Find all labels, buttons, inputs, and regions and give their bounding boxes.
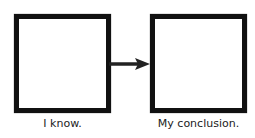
my-conclusion-label: My conclusion. (145, 117, 252, 130)
i-know-box (14, 14, 111, 113)
my-conclusion-box (150, 14, 247, 113)
arrow-right-icon (109, 56, 151, 72)
i-know-label: I know. (14, 117, 111, 130)
